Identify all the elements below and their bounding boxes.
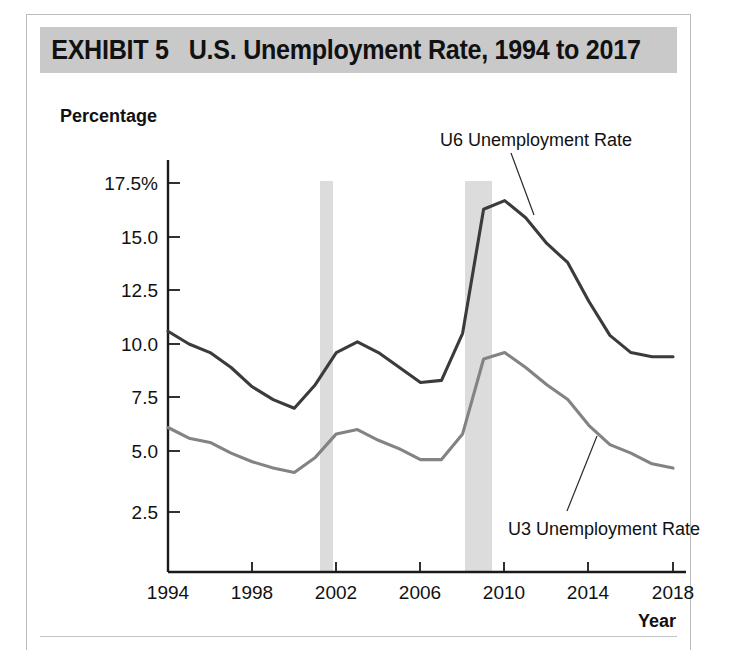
y-axis: 17.5% 15.0 12.5 10.0 7.5 5.0 2.5 Percent… bbox=[60, 106, 180, 572]
u3-annotation-group: U3 Unemployment Rate bbox=[508, 436, 700, 539]
y-tick-label-17.5: 17.5% bbox=[104, 173, 158, 194]
y-axis-title: Percentage bbox=[60, 106, 157, 126]
u6-leader-line bbox=[511, 153, 534, 215]
x-tick-label-1998: 1998 bbox=[231, 582, 273, 603]
x-axis-title: Year bbox=[638, 611, 676, 631]
x-tick-label-1994: 1994 bbox=[147, 582, 190, 603]
y-tick-label-2.5: 2.5 bbox=[132, 502, 158, 523]
exhibit-bottom-rule bbox=[40, 636, 677, 637]
chart-svg: 17.5% 15.0 12.5 10.0 7.5 5.0 2.5 Percent… bbox=[0, 0, 745, 650]
x-tick-label-2006: 2006 bbox=[399, 582, 441, 603]
recession-bands bbox=[320, 181, 492, 572]
x-tick-label-2014: 2014 bbox=[567, 582, 610, 603]
x-tick-label-2010: 2010 bbox=[483, 582, 525, 603]
y-tick-label-15.0: 15.0 bbox=[121, 227, 158, 248]
x-tick-label-2002: 2002 bbox=[315, 582, 357, 603]
u6-annotation-label: U6 Unemployment Rate bbox=[440, 130, 632, 150]
y-tick-label-7.5: 7.5 bbox=[132, 387, 158, 408]
x-axis: 1994 1998 2002 2006 2010 2014 2018 Year bbox=[147, 562, 694, 631]
y-tick-label-12.5: 12.5 bbox=[121, 280, 158, 301]
series-line-u6 bbox=[168, 201, 673, 409]
y-tick-label-5.0: 5.0 bbox=[132, 441, 158, 462]
x-tick-label-2018: 2018 bbox=[652, 582, 694, 603]
unemployment-rate-chart: 17.5% 15.0 12.5 10.0 7.5 5.0 2.5 Percent… bbox=[0, 0, 745, 650]
u3-leader-line bbox=[567, 436, 597, 511]
u3-annotation-label: U3 Unemployment Rate bbox=[508, 519, 700, 539]
y-tick-label-10.0: 10.0 bbox=[121, 334, 158, 355]
series-line-u3 bbox=[168, 353, 673, 473]
